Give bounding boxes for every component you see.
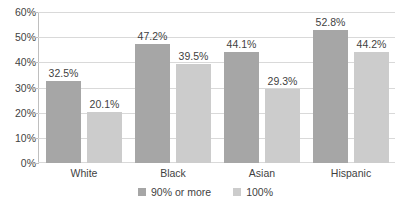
legend-item-100[interactable]: 100% xyxy=(233,186,273,198)
plot-area: 32.5% 20.1% 47.2% 39.5% 44.1% 29.3% xyxy=(38,12,395,163)
legend: 90% or more 100% xyxy=(0,186,411,198)
bar-value-label: 44.1% xyxy=(227,38,257,50)
legend-swatch-icon xyxy=(233,188,241,196)
bar-asian-90-or-more: 44.1% xyxy=(224,52,259,163)
y-axis-tick-label: 50% xyxy=(2,31,36,43)
bar-value-label: 44.2% xyxy=(357,38,387,50)
x-axis-label-hispanic: Hispanic xyxy=(331,167,371,179)
bar-asian-100: 29.3% xyxy=(265,89,300,163)
y-axis: 60% 50% 40% 30% 20% 10% 0% xyxy=(0,12,36,163)
bar-black-100: 39.5% xyxy=(176,64,211,163)
bar-value-label: 20.1% xyxy=(90,98,120,110)
bar-group-asian: 44.1% 29.3% xyxy=(224,12,305,163)
y-axis-tick-label: 60% xyxy=(2,6,36,18)
bar-hispanic-90-or-more: 52.8% xyxy=(313,30,348,163)
bar-value-label: 32.5% xyxy=(49,67,79,79)
y-axis-tick-label: 20% xyxy=(2,107,36,119)
bar-white-90-or-more: 32.5% xyxy=(46,81,81,163)
y-axis-tick-label: 30% xyxy=(2,82,36,94)
bar-group-white: 32.5% 20.1% xyxy=(46,12,127,163)
bar-value-label: 47.2% xyxy=(138,30,168,42)
bar-group-black: 47.2% 39.5% xyxy=(135,12,216,163)
x-axis-label-white: White xyxy=(71,167,98,179)
x-axis-label-asian: Asian xyxy=(249,167,275,179)
y-axis-tick-label: 40% xyxy=(2,56,36,68)
bar-chart: 60% 50% 40% 30% 20% 10% 0% 32.5% 20.1% xyxy=(0,0,411,205)
bar-hispanic-100: 44.2% xyxy=(354,52,389,163)
bar-value-label: 29.3% xyxy=(268,75,298,87)
bar-white-100: 20.1% xyxy=(87,112,122,163)
legend-label: 100% xyxy=(246,186,273,198)
legend-item-90-or-more[interactable]: 90% or more xyxy=(138,186,211,198)
bar-value-label: 52.8% xyxy=(316,16,346,28)
y-axis-tick-label: 0% xyxy=(2,157,36,169)
bar-group-hispanic: 52.8% 44.2% xyxy=(313,12,394,163)
x-axis-label-black: Black xyxy=(160,167,186,179)
bar-black-90-or-more: 47.2% xyxy=(135,44,170,163)
y-axis-tick-label: 10% xyxy=(2,132,36,144)
legend-swatch-icon xyxy=(138,188,146,196)
legend-label: 90% or more xyxy=(151,186,211,198)
bar-value-label: 39.5% xyxy=(179,50,209,62)
